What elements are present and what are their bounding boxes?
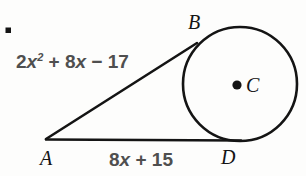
segment-ab-measure: 2x2 + 8x − 17: [16, 52, 129, 71]
ad-coefficient: 8: [109, 149, 120, 170]
point-label-d: D: [221, 147, 235, 167]
ab-mid-term: + 8: [43, 51, 75, 72]
ab-variable: x: [27, 51, 38, 72]
center-point-c-dot: [232, 80, 241, 89]
geometry-figure: B C A D 2x2 + 8x − 17 8x + 15: [0, 0, 306, 176]
point-label-c: C: [246, 75, 259, 95]
point-label-a: A: [40, 148, 52, 168]
ab-coefficient: 2: [16, 51, 27, 72]
problem-bullet-icon: [6, 28, 12, 34]
segment-ad: [46, 140, 241, 141]
ad-variable: x: [120, 149, 131, 170]
ad-constant-term: + 15: [130, 149, 173, 170]
point-label-b: B: [188, 12, 200, 32]
segment-ad-measure: 8x + 15: [109, 150, 173, 169]
ab-variable-2: x: [76, 51, 87, 72]
ab-constant-term: − 17: [86, 51, 129, 72]
